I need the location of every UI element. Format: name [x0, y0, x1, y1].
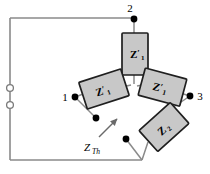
node-dot-lead-left-end: [93, 115, 100, 122]
node-dot-terminal1: [72, 94, 79, 101]
zth-arrow-icon: [99, 119, 117, 137]
terminal-post-lower-icon: [7, 102, 14, 109]
zth-subscript: Th: [92, 147, 100, 156]
circuit-diagram-canvas: Z′ 1 Z′ 1 Z′ 1 Z 2 2: [0, 0, 210, 174]
thevenin-network-figure: Z′ 1 Z′ 1 Z′ 1 Z 2 2: [0, 0, 210, 174]
terminal-label-1: 1: [62, 91, 68, 103]
zth-symbol: Z: [84, 141, 91, 153]
node-dot-lead-bottom-end: [123, 136, 130, 143]
terminal-label-2: 2: [127, 2, 133, 14]
node-dot-terminal2: [131, 16, 138, 23]
lead-bottom-junction-diagonal: [126, 139, 142, 160]
z1-top-subscript: 1: [141, 54, 145, 62]
impedance-box-z1-prime-top[interactable]: Z′ 1: [122, 33, 148, 75]
node-dot-terminal3: [187, 93, 194, 100]
terminal-post-upper-icon: [7, 85, 14, 92]
lead-z2-to-bottom-wire: [142, 142, 148, 160]
impedance-box-z1-prime-left[interactable]: Z′ 1: [79, 69, 129, 109]
zth-annotation-group: Z Th: [84, 119, 117, 156]
impedance-box-z1-prime-right[interactable]: Z′ 1: [138, 68, 187, 106]
terminal-label-3: 3: [197, 90, 203, 102]
